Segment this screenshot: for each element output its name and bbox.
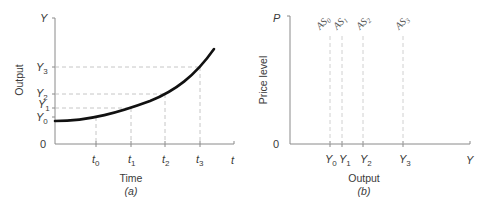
panel-a-x-end-label: t xyxy=(231,154,235,166)
panel-a-x-tick-0: t0 xyxy=(92,153,100,168)
panel-a-origin-label: 0 xyxy=(40,138,46,150)
panel-a-y-tick-3: Y3 xyxy=(36,61,48,76)
panel-a-x-tick-2: t2 xyxy=(162,153,170,168)
panel-a-x-tick-1: t1 xyxy=(128,153,136,168)
output-growth-curve xyxy=(55,49,214,121)
as3-label: AS3 xyxy=(392,13,413,34)
panel-a-y-end-label: Y xyxy=(40,12,48,24)
as1-label: AS1 xyxy=(330,13,350,33)
diagram-canvas: Y t 0 Y3 Y2 Y1 Y0 t0 t1 t2 t3 Time (a) O… xyxy=(0,0,487,204)
panel-a-y-title: Output xyxy=(13,64,25,96)
panel-b-x-tick-0: Y0 xyxy=(325,153,337,168)
as2-label: AS2 xyxy=(353,13,374,34)
panel-b-y-end-label: P xyxy=(273,12,281,24)
panel-b-origin-label: 0 xyxy=(273,138,279,150)
panel-b: AS0 AS1 AS2 AS3 P Y 0 Y0 Y1 Y2 Y3 Output… xyxy=(257,12,474,197)
panel-a-y-tick-0: Y0 xyxy=(36,111,48,126)
panel-a-x-title: Time xyxy=(120,172,143,184)
as-curves xyxy=(330,36,403,144)
panel-b-x-tick-1: Y1 xyxy=(339,153,351,168)
panel-b-x-tick-3: Y3 xyxy=(399,153,411,168)
panel-b-x-tick-2: Y2 xyxy=(360,153,372,168)
panel-b-caption: (b) xyxy=(358,185,371,197)
panel-b-y-title: Price level xyxy=(257,56,269,104)
panel-a-caption: (a) xyxy=(125,185,138,197)
panel-a: Y t 0 Y3 Y2 Y1 Y0 t0 t1 t2 t3 Time (a) O… xyxy=(13,12,235,197)
panel-b-x-title: Output xyxy=(348,172,380,184)
panel-a-x-tick-3: t3 xyxy=(196,153,204,168)
panel-b-x-end-label: Y xyxy=(466,154,474,166)
panel-a-guide-lines xyxy=(55,67,200,144)
